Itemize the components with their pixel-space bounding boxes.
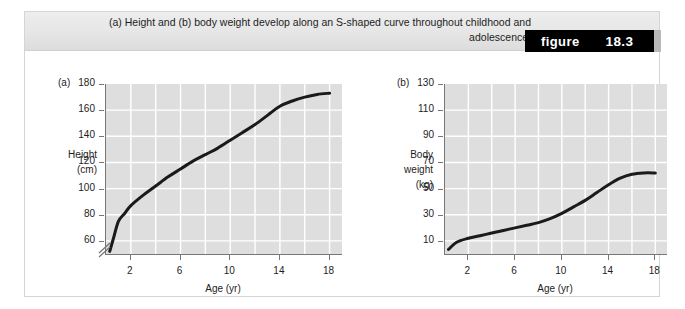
x-tick-mark <box>329 255 330 260</box>
y-tick-mark <box>438 162 443 163</box>
y-tick-mark <box>438 110 443 111</box>
plot-svg <box>445 84 667 254</box>
y-tick-mark <box>438 241 443 242</box>
y-tick-label: 180 <box>71 77 95 88</box>
y-tick-mark <box>99 162 104 163</box>
y-tick-label: 130 <box>410 77 434 88</box>
y-tick-mark <box>438 215 443 216</box>
x-tick-label: 6 <box>172 265 188 276</box>
data-curve <box>449 173 656 250</box>
y-tick-label: 30 <box>410 208 434 219</box>
x-tick-mark <box>514 255 515 260</box>
y-tick-mark <box>99 189 104 190</box>
plot-area <box>105 84 342 255</box>
figure-badge-tail <box>654 30 661 52</box>
y-tick-label: 50 <box>410 182 434 193</box>
panel-tag: (a) <box>58 77 70 88</box>
figure-page: (a) Height and (b) body weight develop a… <box>0 0 685 309</box>
data-curve <box>110 93 330 251</box>
y-tick-label: 140 <box>71 129 95 140</box>
y-tick-label: 80 <box>71 208 95 219</box>
x-tick-mark <box>279 255 280 260</box>
plot-area <box>444 84 667 255</box>
y-tick-mark <box>438 189 443 190</box>
x-tick-label: 14 <box>600 265 616 276</box>
x-axis-title: Age (yr) <box>105 283 341 294</box>
x-tick-label: 18 <box>321 265 337 276</box>
x-tick-label: 2 <box>122 265 138 276</box>
y-tick-label: 60 <box>71 234 95 245</box>
panel-tag: (b) <box>397 77 409 88</box>
figure-card: (a) Height and (b) body weight develop a… <box>24 11 660 297</box>
y-tick-mark <box>438 84 443 85</box>
figure-badge: figure 18.3 <box>525 30 654 52</box>
y-tick-label: 90 <box>410 129 434 140</box>
chart-panel-weight: (b)Bodyweight(kg)10305070901101302610141… <box>355 51 661 298</box>
x-axis-title: Age (yr) <box>444 283 666 294</box>
y-tick-label: 100 <box>71 182 95 193</box>
y-tick-mark <box>99 215 104 216</box>
y-tick-mark <box>438 136 443 137</box>
y-tick-label: 120 <box>71 155 95 166</box>
x-tick-label: 14 <box>271 265 287 276</box>
y-tick-label: 70 <box>410 155 434 166</box>
y-tick-label: 160 <box>71 103 95 114</box>
x-tick-mark <box>467 255 468 260</box>
x-tick-mark <box>180 255 181 260</box>
figure-badge-number: 18.3 <box>606 34 634 49</box>
y-axis-break-mark <box>97 240 113 262</box>
x-tick-mark <box>561 255 562 260</box>
x-tick-mark <box>130 255 131 260</box>
chart-panel-height: (a)Height(cm)608010012014016018026101418… <box>25 51 355 298</box>
x-tick-mark <box>229 255 230 260</box>
y-tick-mark <box>99 84 104 85</box>
y-tick-mark <box>99 136 104 137</box>
x-tick-label: 10 <box>221 265 237 276</box>
y-tick-label: 110 <box>410 103 434 114</box>
y-tick-mark <box>99 110 104 111</box>
x-tick-label: 6 <box>506 265 522 276</box>
x-tick-label: 2 <box>459 265 475 276</box>
plot-svg <box>106 84 342 254</box>
x-tick-mark <box>608 255 609 260</box>
y-tick-label: 10 <box>410 234 434 245</box>
x-tick-mark <box>654 255 655 260</box>
figure-badge-word: figure <box>541 34 580 49</box>
figure-caption: (a) Height and (b) body weight develop a… <box>65 15 531 44</box>
x-tick-label: 10 <box>553 265 569 276</box>
x-tick-label: 18 <box>646 265 662 276</box>
